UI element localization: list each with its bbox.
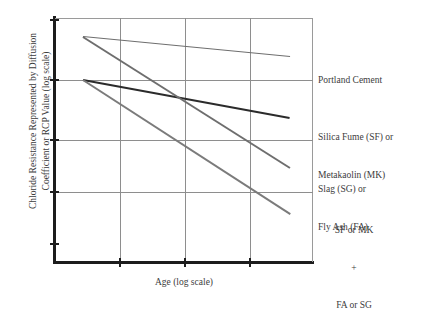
series-label-combo-line2: +: [318, 262, 390, 275]
y-axis-tick-1: [50, 79, 59, 81]
y-axis-tick-3: [50, 191, 59, 193]
y-axis-title: Chloride Resistance Represented by Diffu…: [27, 5, 53, 237]
plot-area: [55, 18, 313, 262]
series-label-silica-fume-line1: Silica Fume (SF) or: [318, 131, 393, 144]
series-label-portland-cement-line1: Portland Cement: [318, 74, 382, 87]
gridline-horizontal-2: [55, 140, 313, 141]
series-label-combo: SF or MK + FA or SG: [318, 199, 390, 312]
y-axis-tick-2: [50, 139, 59, 141]
series-line-slag: [83, 36, 291, 169]
gridline-horizontal-3: [55, 192, 313, 193]
series-label-combo-line3: FA or SG: [318, 299, 390, 312]
series-label-combo-line1: SF or MK: [318, 224, 390, 237]
series-label-portland-cement: Portland Cement: [318, 49, 382, 112]
x-axis-title: Age (log scale): [55, 277, 313, 287]
y-axis-title-line1: Chloride Resistance Represented by Diffu…: [27, 5, 40, 237]
x-axis-tick-1: [119, 258, 121, 267]
y-axis-tick-0: [50, 19, 59, 21]
x-axis-tick-3: [249, 258, 251, 267]
series-label-slag-line1: Slag (SG) or: [318, 183, 368, 196]
y-axis-tick-4: [50, 243, 59, 245]
plot-frame-top: [55, 18, 313, 19]
y-axis-title-line2: Coefficient or RCP Value (log scale): [40, 5, 53, 237]
x-axis-tick-2: [184, 258, 186, 267]
